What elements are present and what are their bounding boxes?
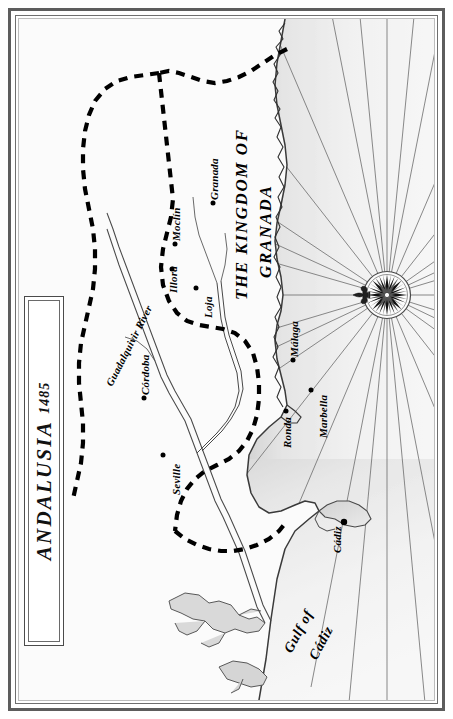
title-cartouche: ANDALUSIA 1485 [24, 296, 64, 646]
antique-map: Granada Moclín Illora Loja Málaga Marbel… [0, 0, 453, 719]
map-plate [19, 19, 434, 700]
city-dot-granada[interactable] [211, 201, 216, 206]
city-dot-cordoba[interactable] [142, 396, 147, 401]
city-dot-seville[interactable] [161, 453, 166, 458]
map-title-text: ANDALUSIA 1485 [32, 382, 57, 560]
city-dot-ronda[interactable] [284, 409, 289, 414]
map-title: ANDALUSIA [32, 421, 56, 560]
city-dot-loja[interactable] [194, 286, 199, 291]
city-dot-malaga[interactable] [291, 358, 296, 363]
city-dot-illora[interactable] [170, 267, 175, 272]
city-dot-marbella[interactable] [309, 388, 314, 393]
city-dot-moclin[interactable] [173, 242, 178, 247]
map-year: 1485 [37, 382, 52, 414]
